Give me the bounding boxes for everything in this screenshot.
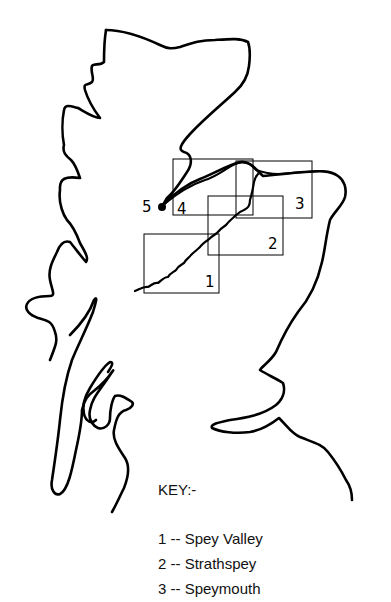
key-item-1: 1 -- Spey Valley <box>158 530 263 547</box>
point-marker-5 <box>158 203 166 211</box>
key-item-2: 2 -- Strathspey <box>158 555 256 572</box>
region-label-3: 3 <box>295 195 305 213</box>
scotland-map: 5 4 3 2 1 <box>0 0 391 602</box>
marker-label-5: 5 <box>142 198 152 216</box>
key-heading: KEY:- <box>158 481 196 498</box>
region-label-1: 1 <box>205 273 215 291</box>
river-spey <box>135 174 258 291</box>
coastline <box>106 30 352 500</box>
region-label-2: 2 <box>268 235 278 253</box>
region-label-4: 4 <box>177 200 187 218</box>
west-coastline-lower <box>52 298 133 512</box>
key-item-3: 3 -- Speymouth <box>158 580 261 597</box>
